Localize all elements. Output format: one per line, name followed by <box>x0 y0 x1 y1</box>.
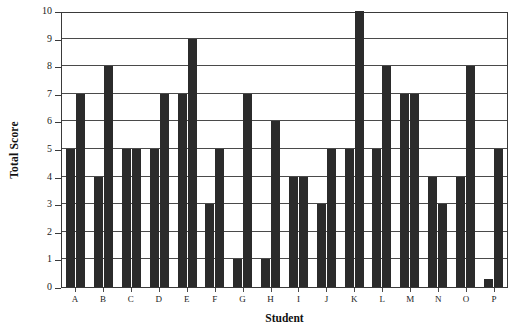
x-axis-tick: L <box>368 288 396 310</box>
x-axis-tick-label: A <box>61 294 89 304</box>
x-axis-tick: C <box>117 288 145 310</box>
bar-group <box>285 13 313 287</box>
bar <box>456 177 465 287</box>
x-axis-tick-mark <box>354 288 355 292</box>
x-axis-tick-label: C <box>117 294 145 304</box>
x-axis-tick-label: D <box>145 294 173 304</box>
bar <box>132 149 141 287</box>
x-axis-tick-mark <box>326 288 327 292</box>
x-axis-tick: B <box>89 288 117 310</box>
bar <box>382 66 391 287</box>
x-axis-tick-label: H <box>257 294 285 304</box>
bar <box>428 177 437 287</box>
bar <box>122 149 131 287</box>
bar-group <box>257 13 285 287</box>
x-axis-tick-mark <box>159 288 160 292</box>
bar <box>410 94 419 287</box>
bar <box>271 121 280 287</box>
bar-chart: Total Score 012345678910 ABCDEFGHIJKLMNO… <box>0 0 523 336</box>
x-axis-tick: N <box>424 288 452 310</box>
x-axis-tick-mark <box>298 288 299 292</box>
y-axis-tick-label: 2 <box>47 226 52 237</box>
x-axis-tick-mark <box>131 288 132 292</box>
bar-group <box>201 13 229 287</box>
bar <box>355 11 364 287</box>
bars-layer <box>62 13 507 287</box>
bar <box>76 94 85 287</box>
bar <box>484 279 493 287</box>
x-axis-tick-label: G <box>229 294 257 304</box>
x-axis-tick: G <box>229 288 257 310</box>
bar <box>66 149 75 287</box>
x-axis-title: Student <box>61 312 508 324</box>
bar-group <box>368 13 396 287</box>
x-axis-tick-label: L <box>368 294 396 304</box>
bar-group <box>90 13 118 287</box>
bar <box>438 204 447 287</box>
bar-group <box>396 13 424 287</box>
bar-group <box>145 13 173 287</box>
bar <box>178 94 187 287</box>
x-axis-tick-label: F <box>201 294 229 304</box>
bar <box>372 149 381 287</box>
x-axis-tick: D <box>145 288 173 310</box>
x-axis-tick-mark <box>271 288 272 292</box>
bar-group <box>340 13 368 287</box>
x-axis-tick: F <box>201 288 229 310</box>
y-axis-tick-label: 9 <box>47 33 52 44</box>
bar-group <box>62 13 90 287</box>
bar-group <box>173 13 201 287</box>
bar <box>317 204 326 287</box>
x-axis-tick-mark <box>187 288 188 292</box>
bar <box>400 94 409 287</box>
bar <box>160 94 169 287</box>
bar-group <box>229 13 257 287</box>
x-axis-tick: P <box>480 288 508 310</box>
bar-group <box>451 13 479 287</box>
x-axis-tick-mark <box>410 288 411 292</box>
x-axis-tick-label: N <box>424 294 452 304</box>
bar-group <box>118 13 146 287</box>
x-axis-tick-mark <box>466 288 467 292</box>
x-axis-tick: J <box>312 288 340 310</box>
x-axis-tick-mark <box>494 288 495 292</box>
x-axis-tick: M <box>396 288 424 310</box>
bar <box>215 149 224 287</box>
x-axis-tick-label: B <box>89 294 117 304</box>
bar-group <box>312 13 340 287</box>
x-axis-tick-label: E <box>173 294 201 304</box>
x-axis-tick: E <box>173 288 201 310</box>
y-axis-tick-label: 8 <box>47 60 52 71</box>
x-axis-tick-label: O <box>452 294 480 304</box>
bar <box>289 177 298 287</box>
y-axis-ticks: 012345678910 <box>0 12 61 288</box>
bar <box>494 149 503 287</box>
x-axis-tick-mark <box>243 288 244 292</box>
x-axis-tick: A <box>61 288 89 310</box>
x-axis-tick-label: I <box>285 294 313 304</box>
x-axis-tick-mark <box>382 288 383 292</box>
x-axis-tick-mark <box>215 288 216 292</box>
y-axis-tick-label: 3 <box>47 198 52 209</box>
x-axis-tick-mark <box>103 288 104 292</box>
bar <box>205 204 214 287</box>
bar <box>345 149 354 287</box>
x-axis-tick-label: J <box>312 294 340 304</box>
bar <box>261 259 270 287</box>
bar <box>188 39 197 287</box>
y-axis-tick-label: 0 <box>47 281 52 292</box>
x-axis-tick-label: P <box>480 294 508 304</box>
y-axis-tick-label: 10 <box>42 5 52 16</box>
x-axis-tick-label: M <box>396 294 424 304</box>
x-axis-tick: I <box>285 288 313 310</box>
bar-group <box>479 13 507 287</box>
x-axis-tick: O <box>452 288 480 310</box>
bar <box>327 149 336 287</box>
y-axis-tick-label: 4 <box>47 171 52 182</box>
y-axis-tick-label: 6 <box>47 115 52 126</box>
bar <box>104 66 113 287</box>
x-axis-ticks: ABCDEFGHIJKLMNOP <box>61 288 508 310</box>
bar <box>243 94 252 287</box>
bar-group <box>424 13 452 287</box>
x-axis-tick: H <box>257 288 285 310</box>
